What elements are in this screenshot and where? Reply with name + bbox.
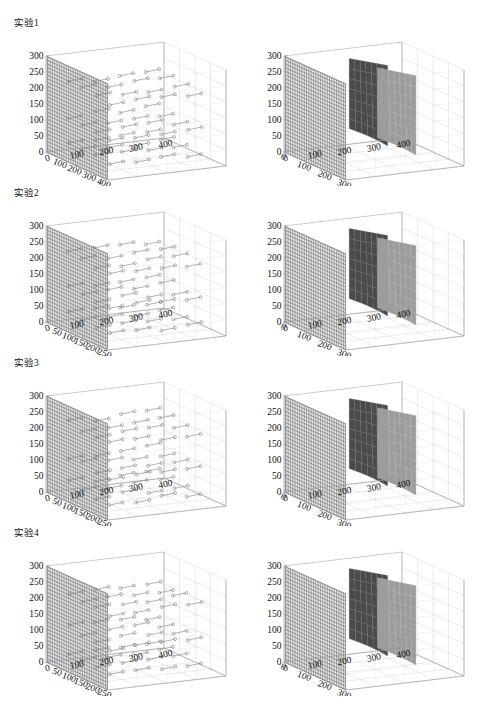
x-tick-label: 200 <box>336 315 352 328</box>
x-tick-label: 300 <box>128 651 144 664</box>
surface-cell <box>361 92 367 104</box>
surface-cell <box>411 86 416 99</box>
surface-cell <box>355 240 361 252</box>
x-tick-label: 400 <box>157 138 173 151</box>
surface-cell <box>395 262 401 274</box>
z-tick-label: 0 <box>39 657 44 667</box>
surface-cell <box>378 428 384 440</box>
surface-cell <box>389 91 395 103</box>
surface-cell <box>389 420 395 432</box>
data-connector <box>135 135 149 138</box>
surface-cell <box>349 599 355 611</box>
grid-line <box>93 159 211 173</box>
row-title-3: 实验3 <box>14 358 39 369</box>
z-tick-label: 50 <box>272 471 282 481</box>
grid-line <box>46 552 164 566</box>
x-tick-label: 200 <box>98 145 114 158</box>
data-connector <box>121 633 135 636</box>
surface-cell <box>378 588 384 600</box>
data-connector <box>108 594 122 597</box>
surface-cell <box>378 418 384 430</box>
data-connector <box>110 613 124 616</box>
surface-cell <box>405 265 410 278</box>
surface-cell <box>361 591 367 603</box>
z-tick-label: 150 <box>267 439 282 449</box>
panel-row2-right: 0501001502002503000100200300010020030040… <box>244 200 478 356</box>
surface-cell <box>383 69 389 81</box>
surface-cell <box>371 243 377 255</box>
surface-cell <box>366 72 372 84</box>
mesh-wall <box>285 227 345 350</box>
surface-cell <box>349 419 355 431</box>
data-connector <box>108 85 122 88</box>
surface-cell <box>349 79 355 91</box>
z-tick-label: 100 <box>29 455 44 465</box>
grid-line <box>331 159 449 173</box>
surface-cell <box>355 430 361 442</box>
data-connector <box>146 617 160 620</box>
surface-cell <box>389 410 395 422</box>
surface-cell <box>405 424 411 436</box>
surface-cell <box>411 267 416 280</box>
surface-cell <box>400 94 406 106</box>
data-connector <box>121 617 135 620</box>
surface-cell <box>389 431 395 443</box>
surface-cell <box>372 605 378 618</box>
surface-cell <box>399 242 405 254</box>
z-tick-label: 200 <box>267 253 282 263</box>
panel-row1-left: 0501001502002503001002003004000100200300… <box>6 30 240 186</box>
surface-cell <box>371 63 377 75</box>
surface-cell <box>360 571 366 583</box>
data-connector <box>136 300 150 303</box>
data-connector <box>120 133 134 136</box>
z-tick-label: 50 <box>34 641 44 651</box>
surface-cell <box>411 607 416 620</box>
data-connector <box>187 434 201 437</box>
y-tick-label: 400 <box>95 176 112 186</box>
z-tick-label: 50 <box>272 641 282 651</box>
surface-cell <box>395 92 401 104</box>
data-connector <box>133 457 147 460</box>
surface-cell <box>361 421 367 433</box>
z-tick-label: 200 <box>267 83 282 93</box>
z-tick-label: 300 <box>267 391 282 401</box>
data-connector <box>120 242 134 245</box>
surface-cell <box>389 580 395 592</box>
data-connector <box>147 443 161 446</box>
data-connector <box>120 473 134 476</box>
data-connector <box>121 411 135 414</box>
z-tick-label: 300 <box>29 51 44 61</box>
surface-cell <box>411 278 416 291</box>
data-connector <box>108 256 122 259</box>
data-connector <box>187 297 201 300</box>
surface-cell <box>355 580 361 592</box>
surface-cell <box>383 409 389 421</box>
surface-cell <box>355 590 361 602</box>
surface-cell <box>366 423 372 435</box>
data-connector <box>147 302 161 305</box>
surface-cell <box>366 582 372 594</box>
surface-cell <box>360 411 366 423</box>
y-tick-label: 250 <box>96 686 113 696</box>
z-tick-label: 50 <box>34 131 44 141</box>
plot-canvas: 0501001502002503000100200300010020030040… <box>244 540 478 696</box>
data-connector <box>123 124 137 127</box>
surface-cell <box>367 93 373 105</box>
data-connector <box>188 93 202 96</box>
surface-cell <box>383 239 389 251</box>
z-tick-label: 200 <box>267 423 282 433</box>
surface3d-plot: 0501001502002503000100200300010020030040… <box>244 200 478 356</box>
z-tick-label: 100 <box>267 455 282 465</box>
z-tick-label: 150 <box>29 609 44 619</box>
surface-cell <box>411 97 416 110</box>
grid-line <box>284 552 402 566</box>
y-tick-label: 300 <box>336 177 353 186</box>
surface-cell <box>371 403 377 415</box>
grid-line <box>46 42 164 56</box>
grid-line <box>331 669 449 683</box>
y-tick-label: 250 <box>96 516 113 526</box>
surface-cell <box>372 84 378 96</box>
surface-cell <box>405 84 411 96</box>
surface-cell <box>349 569 355 580</box>
surface-cell <box>405 605 410 618</box>
